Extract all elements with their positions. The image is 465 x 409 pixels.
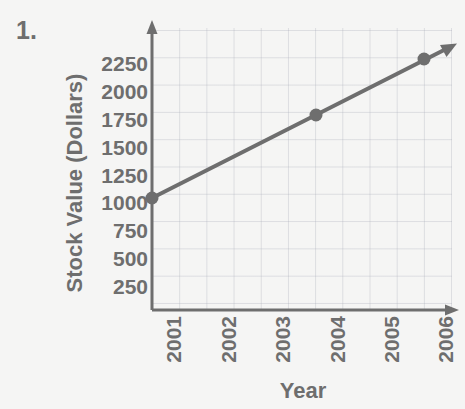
x-tick-label: 2004 [327, 316, 348, 363]
x-tick-label: 2005 [381, 316, 402, 363]
y-axis-title: Stock Value (Dollars) [64, 74, 86, 293]
x-axis-title: Year [280, 380, 327, 402]
x-tick-label: 2006 [435, 316, 456, 363]
x-tick-label: 2002 [218, 316, 239, 363]
worksheet-page: 1. 2250 2000 1750 1500 12 [0, 0, 465, 409]
x-tick-label: 2003 [272, 316, 293, 363]
x-tick-label: 2001 [163, 316, 184, 363]
